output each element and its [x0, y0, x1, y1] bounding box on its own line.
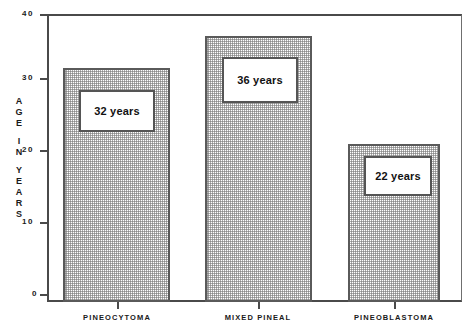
bar-chart: 40 30 20 10 0 A G E I N Y E A R S 32 yea…: [0, 0, 476, 332]
xcat-label-pineoblastoma: PINEOBLASTOMA: [334, 313, 454, 322]
y-axis-title-char: A: [11, 187, 27, 198]
y-axis-title-char: G: [11, 107, 27, 118]
xtick-mark-1: [117, 302, 119, 309]
y-axis-title-char: E: [11, 118, 27, 129]
y-axis-title-word-gap: [11, 129, 27, 136]
value-callout-pineoblastoma: 22 years: [364, 156, 432, 196]
y-axis-title-char: N: [11, 147, 27, 158]
y-axis-title-word-gap: [11, 158, 27, 165]
xcat-label-mixed-pineal: MIXED PINEAL: [198, 313, 318, 322]
xtick-mark-2: [258, 302, 260, 309]
value-callout-mixed-pineal: 36 years: [222, 57, 298, 103]
xtick-mark-3: [394, 302, 396, 309]
xcat-label-pineocytoma: PINEOCYTOMA: [57, 313, 177, 322]
ytick-mark-30: [40, 78, 49, 80]
y-axis-title-char: S: [11, 209, 27, 220]
ytick-mark-40: [40, 14, 49, 16]
ytick-mark-10: [40, 222, 49, 224]
y-axis-title: A G E I N Y E A R S: [11, 96, 27, 220]
value-callout-pineocytoma: 32 years: [79, 90, 155, 132]
ytick-mark-0: [40, 294, 49, 296]
ytick-mark-20: [40, 150, 49, 152]
y-axis-title-char: R: [11, 198, 27, 209]
y-axis-title-char: I: [11, 136, 27, 147]
y-axis-title-char: A: [11, 96, 27, 107]
y-axis-title-char: E: [11, 176, 27, 187]
y-axis-title-char: Y: [11, 165, 27, 176]
